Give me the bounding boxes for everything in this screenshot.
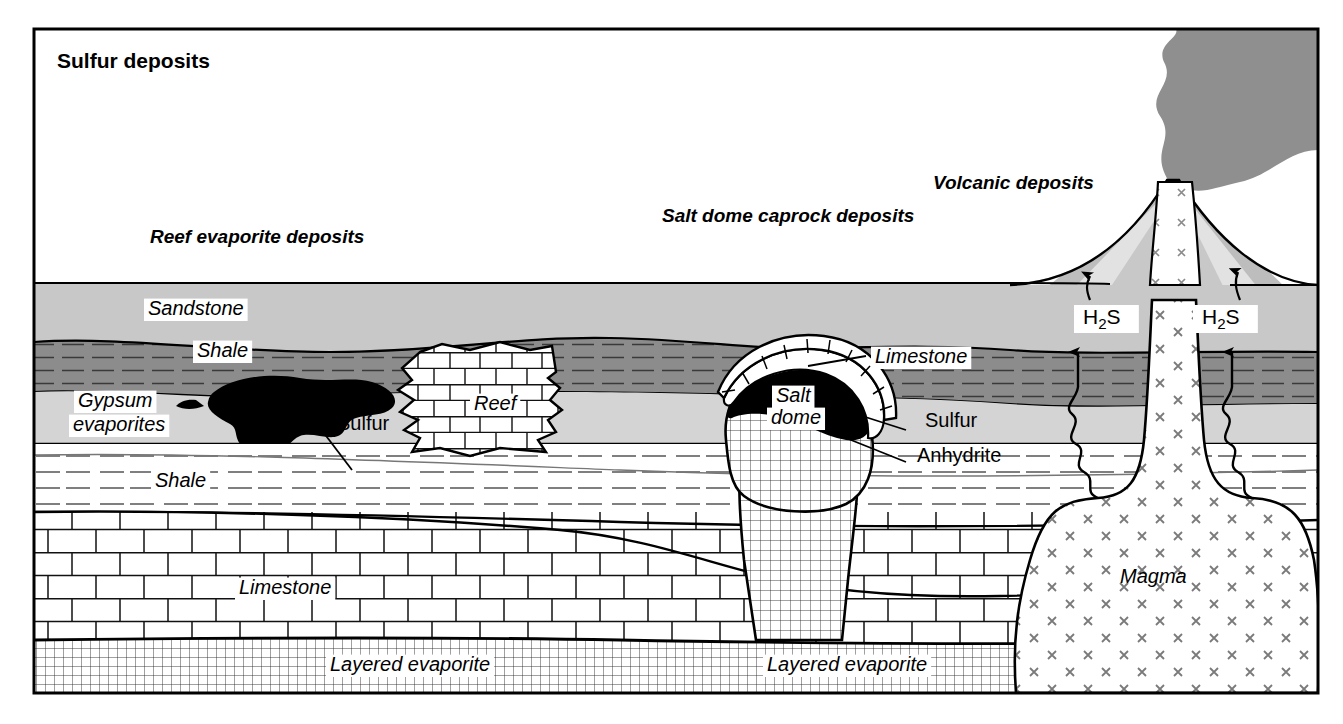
unit-label-saltdome-2: dome <box>767 406 825 430</box>
deposit-label-caprock-text: Salt dome caprock deposits <box>662 205 914 226</box>
figure-title-text: Sulfur deposits <box>57 49 210 72</box>
unit-label-shale-upper: Shale <box>193 339 252 363</box>
callout-anhydrite: Anhydrite <box>917 444 1002 466</box>
unit-label-gypsum-2: evaporites <box>69 413 169 437</box>
unit-label-magma-text: Magma <box>1120 565 1187 587</box>
unit-label-sandstone-text: Sandstone <box>148 297 244 319</box>
unit-label-gypsum-1-text: Gypsum <box>78 389 152 411</box>
unit-label-saltdome-1: Salt <box>772 384 814 408</box>
unit-label-shale-deep-text: Shale <box>155 469 206 491</box>
unit-label-limestone-r-text: Limestone <box>875 345 967 367</box>
unit-label-evap-left: Layered evaporite <box>326 653 494 677</box>
unit-label-saltdome-2-text: dome <box>771 406 821 428</box>
callout-sulfur-right: Sulfur <box>925 409 978 431</box>
figure-title: Sulfur deposits <box>57 49 210 72</box>
unit-label-limestone-l-text: Limestone <box>239 576 331 598</box>
unit-label-evap-right-text: Layered evaporite <box>767 653 927 675</box>
sulfur-deposits-cross-section: Sulfur depositsReef evaporite depositsSa… <box>0 0 1343 724</box>
deposit-label-reef: Reef evaporite deposits <box>150 226 364 247</box>
unit-label-evap-left-text: Layered evaporite <box>330 653 490 675</box>
unit-label-shale-upper-text: Shale <box>197 339 248 361</box>
gas-label-h2s-right: H2S <box>1193 305 1258 333</box>
unit-label-reef-unit-text: Reef <box>474 392 519 414</box>
deposit-label-caprock: Salt dome caprock deposits <box>662 205 914 226</box>
volcanic-conduit <box>1150 182 1200 285</box>
gas-label-tail: S <box>1226 305 1240 328</box>
gas-label-tail: S <box>1107 305 1121 328</box>
callout-sulfur-left-text: Sulfur <box>337 412 390 434</box>
gas-label-subscript: 2 <box>1098 315 1106 332</box>
deposit-label-volcanic-text: Volcanic deposits <box>933 172 1094 193</box>
unit-label-evap-right: Layered evaporite <box>763 653 931 677</box>
unit-label-limestone-l: Limestone <box>235 576 335 600</box>
deposit-label-reef-text: Reef evaporite deposits <box>150 226 364 247</box>
callout-sulfur-right-text: Sulfur <box>925 409 978 431</box>
callout-sulfur-left: Sulfur <box>337 412 390 434</box>
unit-label-sandstone: Sandstone <box>144 297 248 321</box>
unit-label-limestone-r: Limestone <box>871 345 971 369</box>
unit-label-gypsum-2-text: evaporites <box>73 413 165 435</box>
figure-stage: Sulfur depositsReef evaporite depositsSa… <box>0 0 1343 724</box>
deposit-label-volcanic: Volcanic deposits <box>933 172 1094 193</box>
callout-anhydrite-text: Anhydrite <box>917 444 1002 466</box>
unit-label-reef-unit: Reef <box>470 392 520 416</box>
ground-surface-line <box>34 283 1110 284</box>
unit-label-saltdome-1-text: Salt <box>776 384 812 406</box>
unit-label-gypsum-1: Gypsum <box>74 389 156 413</box>
gas-label-h2s-left: H2S <box>1074 305 1139 333</box>
gas-label-subscript: 2 <box>1217 315 1225 332</box>
unit-label-shale-deep: Shale <box>151 469 210 493</box>
unit-label-magma: Magma <box>1120 565 1187 587</box>
